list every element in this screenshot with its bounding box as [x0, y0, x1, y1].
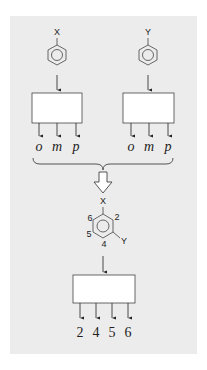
output-position-6: 6	[125, 325, 132, 340]
position-5-label: 5	[86, 229, 91, 239]
position-6-label: 6	[87, 213, 92, 223]
reaction-box-x	[32, 93, 82, 123]
benzene-y: Y	[139, 27, 157, 65]
output-meta-x: m	[52, 139, 62, 154]
position-2-label: 2	[114, 212, 119, 222]
merge-brace	[33, 158, 173, 170]
output-position-5: 5	[109, 325, 116, 340]
output-ortho-y: o	[128, 139, 135, 154]
reaction-box-combined	[73, 275, 135, 303]
output-meta-y: m	[144, 139, 154, 154]
output-ortho-x: o	[36, 139, 43, 154]
combined-y-label: Y	[121, 236, 127, 246]
hollow-down-arrow	[94, 172, 112, 193]
substituent-x-label: X	[54, 27, 60, 37]
substituent-y-label: Y	[145, 27, 151, 37]
output-para-x: p	[72, 139, 80, 154]
output-para-y: p	[164, 139, 172, 154]
substitution-diagram: X o m p Y o m p X 6 2 5 4 Y	[0, 0, 207, 370]
reaction-box-y	[123, 93, 174, 123]
output-position-2: 2	[77, 325, 84, 340]
position-4-label: 4	[101, 239, 106, 249]
disubstituted-benzene: X 6 2 5 4 Y	[86, 196, 127, 249]
combined-x-label: X	[100, 196, 106, 206]
benzene-x: X	[48, 27, 66, 65]
output-position-4: 4	[93, 325, 100, 340]
